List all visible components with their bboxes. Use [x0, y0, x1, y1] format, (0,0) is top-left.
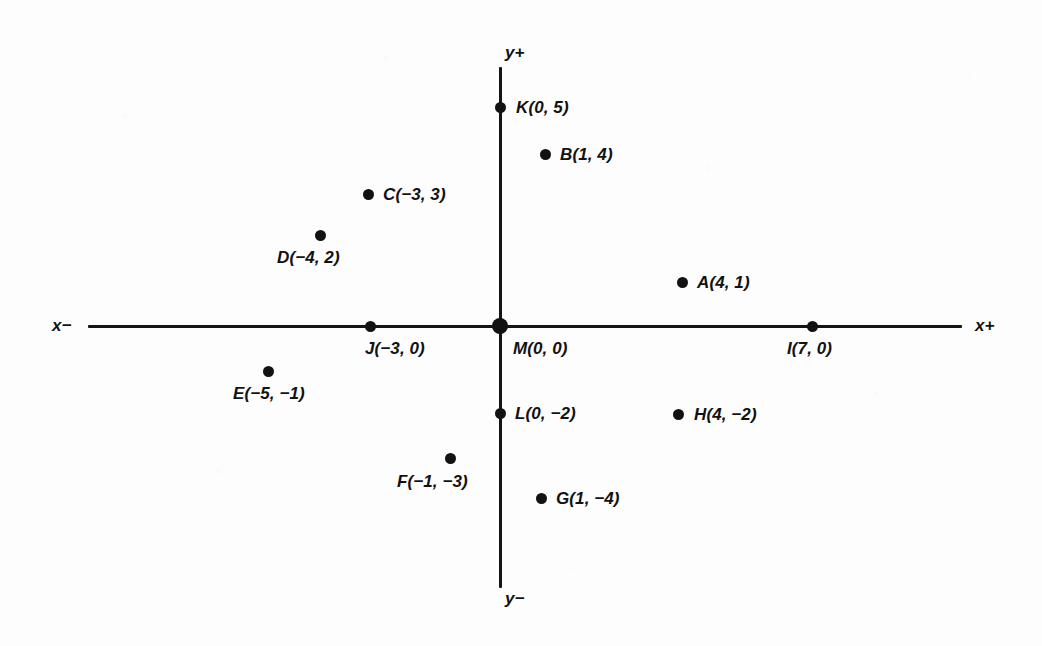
point-dot-a [677, 277, 688, 288]
point-dot-h [673, 409, 684, 420]
point-label-j: J(−3, 0) [365, 340, 425, 357]
point-dot-l [495, 408, 506, 419]
point-dot-k [495, 102, 506, 113]
point-label-g: G(1, −4) [556, 490, 620, 507]
point-label-f: F(−1, −3) [397, 473, 468, 490]
point-label-i: I(7, 0) [787, 340, 832, 357]
point-dot-i [807, 321, 818, 332]
point-dot-j [365, 321, 376, 332]
point-dot-m [492, 318, 508, 334]
axis-label-y-negative: y− [505, 590, 524, 607]
axis-label-x-positive: x+ [975, 317, 994, 334]
point-dot-e [263, 366, 274, 377]
point-label-c: C(−3, 3) [383, 186, 446, 203]
axis-label-x-negative: x− [52, 317, 71, 334]
point-label-h: H(4, −2) [694, 406, 757, 423]
point-label-e: E(−5, −1) [233, 385, 305, 402]
x-axis-line [88, 325, 962, 328]
point-label-m: M(0, 0) [513, 340, 568, 357]
axis-label-y-positive: y+ [505, 44, 524, 61]
point-dot-d [315, 230, 326, 241]
coordinate-plane-figure: x− x+ y+ y− A(4, 1)B(1, 4)C(−3, 3)D(−4, … [0, 0, 1042, 646]
point-dot-c [363, 189, 374, 200]
point-label-b: B(1, 4) [560, 146, 613, 163]
point-label-a: A(4, 1) [697, 274, 750, 291]
point-label-d: D(−4, 2) [277, 249, 340, 266]
point-dot-b [540, 149, 551, 160]
paper-texture-overlay [0, 0, 1042, 646]
point-label-k: K(0, 5) [516, 99, 569, 116]
point-label-l: L(0, −2) [515, 405, 576, 422]
point-dot-f [445, 453, 456, 464]
point-dot-g [536, 493, 547, 504]
